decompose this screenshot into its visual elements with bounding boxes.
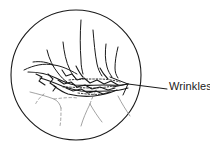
figure-canvas (0, 0, 210, 152)
callout-label-wrinkles: Wrinkles (169, 80, 210, 93)
wrinkles-detail-figure: Wrinkles (0, 0, 210, 152)
